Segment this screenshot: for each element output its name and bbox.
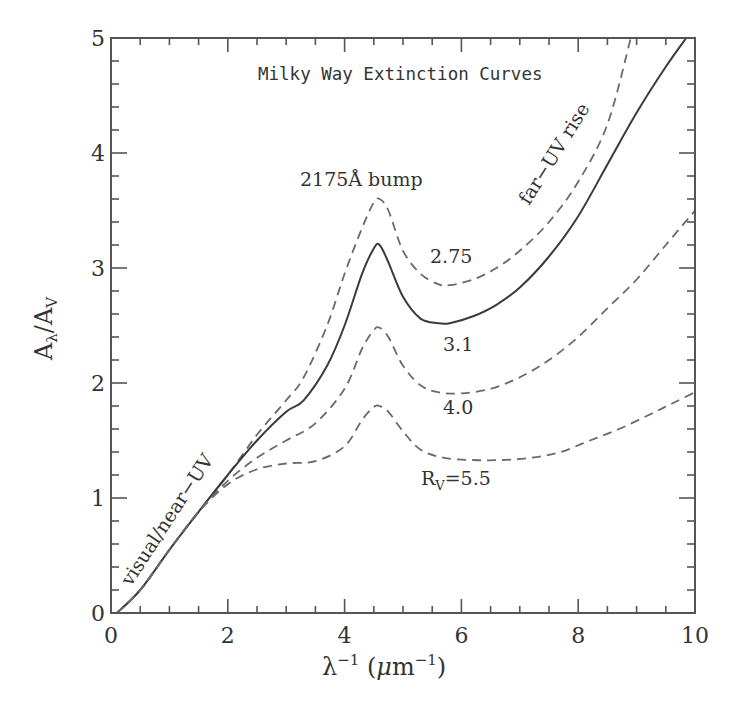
x-tick-label: 4 [338, 623, 352, 648]
y-axis-label: Aλ/AV [30, 296, 61, 361]
x-tick-label: 8 [571, 623, 585, 648]
y-label-A: A [30, 342, 58, 361]
y-label-sub-v: V [43, 296, 61, 309]
x-label-unit-sup: −1 [415, 651, 437, 669]
annotation-visual-near-uv: visual/near−UV [115, 449, 217, 590]
curve-rv-3-1 [117, 38, 686, 613]
x-label-lambda: λ [322, 653, 337, 681]
x-tick-label: 0 [104, 623, 118, 648]
label-rv-5-5-sub: V [434, 478, 445, 493]
tick-labels: 0246810012345 [91, 26, 709, 648]
x-label-close: ) [437, 653, 446, 681]
label-rv-5-5: RV=5.5 [421, 467, 491, 493]
y-tick-label: 0 [91, 601, 105, 626]
y-tick-label: 5 [91, 26, 105, 51]
y-label-sub-lambda: λ [43, 333, 61, 343]
curves-group [117, 38, 695, 613]
label-rv-2-75: 2.75 [430, 245, 472, 267]
plot-frame [111, 38, 695, 613]
axis-ticks [111, 38, 695, 613]
x-axis-label: λ−1 (μm−1) [322, 651, 446, 681]
label-rv-3-1: 3.1 [443, 333, 473, 355]
x-tick-label: 10 [681, 623, 709, 648]
y-tick-label: 3 [91, 256, 105, 281]
y-label-A2: A [30, 307, 58, 326]
label-rv-4-0: 4.0 [443, 396, 473, 418]
x-label-sup: −1 [337, 651, 359, 669]
extinction-chart: 0246810012345 Milky Way Extinction Curve… [0, 0, 739, 716]
label-rv-5-5-R: R [421, 467, 436, 489]
curve-rv-4-0 [117, 211, 695, 614]
curve-rv-2-75 [117, 38, 631, 613]
curve-rv-5-5 [117, 392, 695, 613]
x-label-open: ( [359, 653, 376, 681]
x-tick-label: 6 [454, 623, 468, 648]
y-tick-label: 1 [91, 486, 105, 511]
annotation-far-uv: far−UV rise [514, 99, 594, 208]
chart-title: Milky Way Extinction Curves [258, 64, 542, 84]
x-tick-label: 2 [221, 623, 235, 648]
label-rv-5-5-val: =5.5 [445, 467, 491, 489]
y-tick-label: 2 [91, 371, 105, 396]
x-label-m: m [392, 653, 415, 681]
y-tick-label: 4 [91, 141, 105, 166]
annotation-bump: 2175Å bump [300, 168, 423, 190]
x-label-mu: μ [376, 653, 392, 681]
